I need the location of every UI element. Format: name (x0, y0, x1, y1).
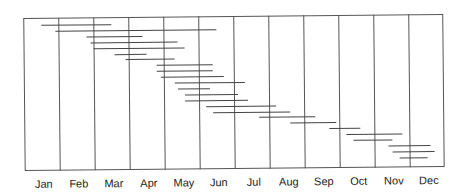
gantt-chart: Jan Feb Mar Apr May Jun Jul Aug Sep Oct … (0, 0, 468, 193)
month-label-dec: Dec (409, 174, 449, 186)
x-axis-month-labels: Jan Feb Mar Apr May Jun Jul Aug Sep Oct … (0, 0, 467, 2)
task-bars (0, 0, 467, 2)
month-gridlines (0, 0, 467, 2)
